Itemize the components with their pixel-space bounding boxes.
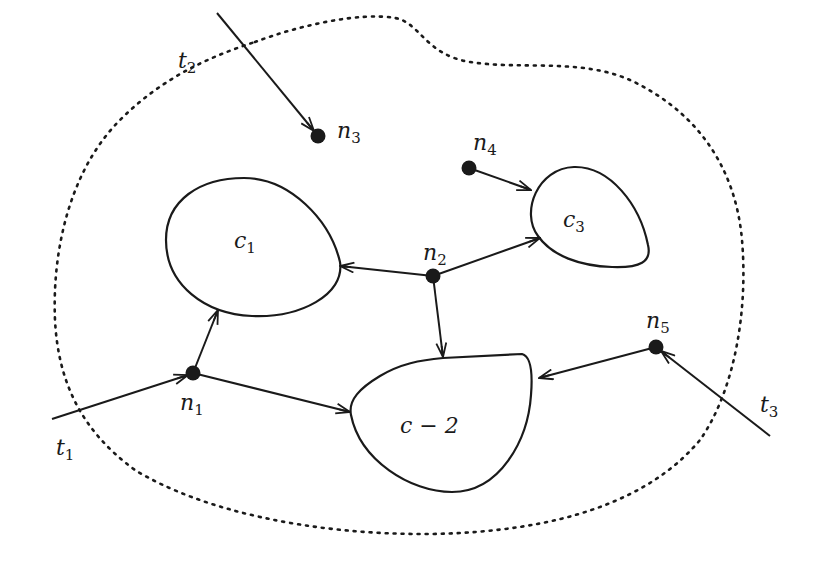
label-t1: t1: [56, 435, 74, 464]
label-n1: n1: [180, 390, 204, 419]
edge-n2-c3: [433, 238, 540, 276]
edge-t3-n5: [661, 351, 770, 436]
edge-n5-c-2: [539, 347, 656, 378]
label-n5: n5: [646, 308, 670, 337]
edge-n2-c-2: [433, 276, 443, 357]
label-n3: n3: [337, 118, 361, 147]
edge-t2-n3: [217, 13, 314, 131]
edge-n2-c1: [340, 266, 433, 276]
label-c-2: c − 2: [400, 413, 459, 438]
node-n2: [426, 269, 441, 284]
node-n5: [649, 340, 664, 355]
label-c3: c3: [563, 207, 585, 236]
label-c1: c1: [234, 228, 256, 257]
label-n2: n2: [423, 240, 447, 269]
label-t2: t2: [178, 48, 196, 77]
region-boundary: [55, 17, 744, 535]
network-diagram: c1 c3 c − 2 n1 n2 n3 n4 n5 t1 t2 t3: [0, 0, 824, 571]
node-n1: [186, 366, 201, 381]
label-n4: n4: [473, 130, 497, 159]
node-n4: [462, 161, 477, 176]
label-t3: t3: [760, 392, 778, 421]
node-n3: [311, 129, 326, 144]
edge-n1-c-2: [193, 373, 350, 412]
edge-n1-c1: [193, 310, 218, 373]
edge-n4-c3: [469, 168, 531, 190]
cluster-c3: [531, 167, 649, 267]
